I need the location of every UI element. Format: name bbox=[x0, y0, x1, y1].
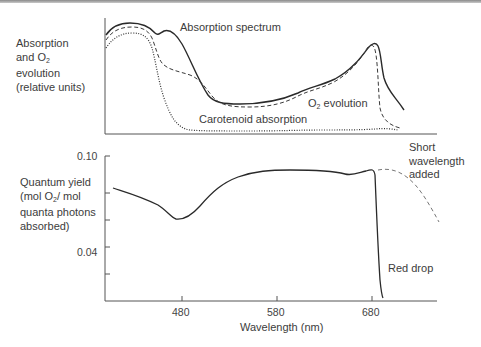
xtick-label-680: 680 bbox=[362, 306, 380, 318]
xtick-label-480: 480 bbox=[172, 306, 190, 318]
bottom-plot-axes bbox=[105, 156, 437, 301]
ylabel-subscript: 2 bbox=[46, 57, 50, 64]
o2-evolution-annotation: O2 evolution bbox=[308, 97, 368, 114]
x-axis-label: Wavelength (nm) bbox=[240, 321, 323, 335]
annotation-line: Short bbox=[409, 141, 465, 155]
ylabel-line: quanta photons bbox=[20, 206, 96, 220]
red-drop-annotation: Red drop bbox=[388, 262, 433, 276]
annotation-line: wavelength bbox=[409, 155, 465, 169]
annotation-line: added bbox=[409, 168, 465, 182]
ylabel-line: (relative units) bbox=[16, 81, 85, 95]
ylabel-line: Absorption bbox=[16, 37, 85, 51]
quantum-yield-line bbox=[113, 170, 383, 298]
ylabel-line: and O2 bbox=[16, 51, 85, 68]
ylabel-text: / mol bbox=[57, 190, 81, 202]
annotation-text: O bbox=[308, 97, 317, 109]
ytick-label-top: 0.10 bbox=[77, 150, 97, 162]
ylabel-line: Quantum yield bbox=[20, 176, 96, 190]
top-y-axis-label: Absorption and O2 evolution (relative un… bbox=[16, 37, 85, 94]
ylabel-text: and O bbox=[16, 51, 46, 63]
ylabel-text: (mol O bbox=[20, 190, 53, 202]
carotenoid-absorption-annotation: Carotenoid absorption bbox=[199, 113, 307, 127]
ytick-label-mid: 0.04 bbox=[77, 246, 97, 258]
ylabel-line: (mol O2/ mol bbox=[20, 190, 96, 207]
bottom-y-axis-label: Quantum yield (mol O2/ mol quanta photon… bbox=[20, 176, 96, 233]
ylabel-line: absorbed) bbox=[20, 220, 96, 234]
ylabel-line: evolution bbox=[16, 67, 85, 81]
short-wavelength-added-annotation: Short wavelength added bbox=[409, 141, 465, 182]
annotation-text: evolution bbox=[320, 97, 367, 109]
xtick-label-580: 580 bbox=[267, 306, 285, 318]
absorption-spectrum-annotation: Absorption spectrum bbox=[180, 21, 281, 35]
